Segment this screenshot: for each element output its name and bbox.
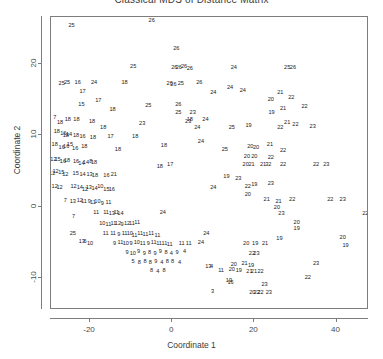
- data-point: 19: [252, 242, 258, 248]
- data-point: 26: [290, 66, 296, 72]
- data-point: 12: [57, 185, 63, 191]
- data-point: 18: [73, 133, 79, 139]
- data-point: 22: [289, 197, 295, 203]
- data-point: 11: [134, 220, 140, 226]
- data-point: 8: [144, 259, 147, 265]
- data-point: 8: [166, 259, 169, 265]
- data-point: 18: [73, 118, 79, 124]
- data-point: 24: [203, 231, 209, 237]
- data-point: 18: [65, 117, 71, 123]
- data-point: 24: [198, 140, 204, 146]
- data-point: 7: [72, 215, 75, 221]
- data-point: 9: [101, 201, 104, 207]
- data-point: 21: [284, 120, 290, 126]
- data-point: 24: [202, 117, 208, 123]
- x-tick-mark: [253, 318, 254, 322]
- data-point: 9: [130, 241, 133, 247]
- data-point: 18: [89, 119, 95, 125]
- data-point: 17: [95, 98, 101, 104]
- x-tick-label: 40: [331, 325, 340, 334]
- data-point: 14: [66, 132, 72, 138]
- data-point: 25: [178, 81, 184, 87]
- scatter-plot-figure: Classical MDS of Distance Matrix 2526262…: [0, 0, 383, 359]
- data-point: 9: [147, 241, 150, 247]
- data-point: 14: [83, 160, 89, 166]
- y-tick-label: 10: [29, 127, 38, 141]
- data-point: 22: [305, 275, 311, 281]
- data-point: 19: [294, 227, 300, 233]
- data-point: 4: [170, 252, 173, 258]
- data-point: 11: [106, 200, 112, 206]
- data-point: 22: [257, 290, 263, 296]
- data-point: 26: [149, 18, 155, 24]
- data-point: 11: [110, 232, 116, 238]
- data-point: 22: [280, 148, 286, 154]
- data-point: 16: [72, 146, 78, 152]
- page-title: Classical MDS of Distance Matrix: [0, 0, 383, 5]
- plot-area: 2526262625262626242526252516241826262526…: [50, 16, 368, 309]
- data-point: 20: [243, 241, 249, 247]
- data-point: 21: [241, 261, 247, 267]
- data-point: 8: [171, 259, 174, 265]
- data-point: 23: [253, 251, 259, 257]
- data-point: 18: [121, 81, 127, 87]
- data-point: 11: [93, 210, 99, 216]
- data-point: 21: [248, 162, 254, 168]
- data-point: 18: [54, 129, 60, 135]
- data-point: 24: [198, 240, 204, 246]
- data-point: 25: [64, 81, 70, 87]
- data-point: 24: [194, 125, 200, 131]
- data-point: 22: [288, 95, 294, 101]
- data-point: 19: [236, 268, 242, 274]
- data-point: 8: [138, 260, 141, 266]
- data-point: 11: [167, 242, 173, 248]
- x-tick-mark: [336, 318, 337, 322]
- data-point: 20: [340, 235, 346, 241]
- data-point: 16: [103, 173, 109, 179]
- data-point: 22: [245, 185, 251, 191]
- data-point: 25: [145, 103, 151, 109]
- data-point: 19: [269, 110, 275, 116]
- data-point: 11: [103, 231, 109, 237]
- data-point: 10: [130, 251, 136, 257]
- data-point: 21: [264, 197, 270, 203]
- data-point: 11: [218, 268, 224, 274]
- y-tick-mark: [38, 134, 42, 135]
- data-point: 22: [280, 162, 286, 168]
- data-point: 15: [73, 171, 79, 177]
- data-point: 8: [164, 250, 167, 256]
- data-point: 16: [227, 280, 233, 286]
- data-point: 25: [130, 64, 136, 70]
- data-point: 16: [80, 135, 86, 141]
- data-point: 9: [176, 250, 179, 256]
- data-point: 18: [110, 108, 116, 114]
- data-point: 17: [107, 134, 113, 140]
- data-point: 21: [111, 172, 117, 178]
- data-point: 26: [170, 82, 176, 88]
- data-point: 20: [253, 145, 259, 151]
- data-point: 11: [179, 241, 185, 247]
- data-point: 23: [262, 282, 268, 288]
- x-tick-label: 0: [169, 325, 173, 334]
- data-point: 26: [176, 66, 182, 72]
- data-point: 23: [266, 290, 272, 296]
- data-point: 9: [113, 241, 116, 247]
- data-point: 9: [154, 259, 157, 265]
- data-point: 10: [99, 221, 105, 227]
- data-point: 23: [139, 121, 145, 127]
- data-point: 24: [231, 66, 237, 72]
- data-point: 18: [161, 143, 167, 149]
- data-point: 20: [268, 97, 274, 103]
- data-point: 20: [274, 205, 280, 211]
- data-point: 26: [173, 46, 179, 52]
- data-point: 18: [57, 120, 63, 126]
- data-point: 23: [340, 197, 346, 203]
- data-point: 17: [167, 162, 173, 168]
- data-point: 9: [117, 232, 120, 238]
- x-axis-label: Coordinate 1: [0, 340, 383, 350]
- data-point: 11: [155, 233, 161, 239]
- data-point: 9: [153, 251, 156, 257]
- data-point: 24: [160, 210, 166, 216]
- data-point: 11: [140, 242, 146, 248]
- data-point: 11: [186, 242, 192, 248]
